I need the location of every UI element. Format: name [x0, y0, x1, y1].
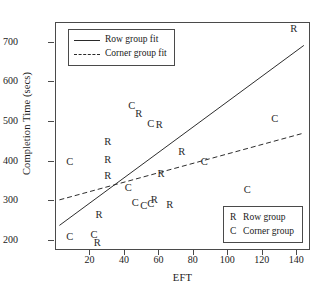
data-point-R: R: [104, 155, 111, 166]
legend-corner-group: C Corner group: [230, 224, 294, 238]
data-point-R: R: [135, 109, 142, 120]
data-point-C: C: [125, 182, 132, 193]
data-point-R: R: [290, 24, 297, 35]
y-tick-mark: [48, 121, 54, 122]
data-point-C: C: [201, 157, 208, 168]
data-point-C: C: [66, 157, 73, 168]
legend-row-group-fit: Row group fit: [74, 33, 167, 47]
corner-group-fit-line: [59, 133, 303, 200]
data-point-C: C: [271, 114, 278, 125]
plot-area: RRRRRRRRRRRRCCCCCCCCCCCC Row group fit C…: [55, 22, 310, 250]
y-tick-label: 600: [0, 75, 18, 86]
legend-label-row: Row group: [243, 210, 286, 224]
y-tick-mark: [48, 200, 54, 201]
data-point-C: C: [66, 232, 73, 243]
data-point-C: C: [147, 119, 154, 130]
y-tick-mark: [48, 240, 54, 241]
legend-key-row: R: [230, 210, 238, 224]
legend-label-corner: Corner group: [243, 224, 294, 238]
y-tick-mark: [48, 81, 54, 82]
data-point-C: C: [90, 230, 97, 241]
data-point-R: R: [104, 170, 111, 181]
x-tick-label: 140: [276, 254, 316, 265]
legend-corner-group-fit: Corner group fit: [74, 47, 167, 61]
fit-line-legend: Row group fit Corner group fit: [68, 29, 175, 66]
x-axis-label: EFT: [55, 272, 310, 283]
x-tick-mark: [158, 250, 159, 255]
data-point-R: R: [178, 147, 185, 158]
y-tick-mark: [48, 161, 54, 162]
data-point-R: R: [158, 168, 165, 179]
dashed-line-swatch-icon: [74, 50, 100, 58]
y-tick-mark: [48, 42, 54, 43]
y-tick-label: 200: [0, 234, 18, 245]
group-legend: R Row group C Corner group: [223, 206, 303, 244]
data-point-R: R: [166, 200, 173, 211]
solid-line-swatch-icon: [74, 36, 100, 44]
row-group-fit-line: [59, 45, 303, 225]
x-tick-mark: [296, 250, 297, 255]
legend-key-corner: C: [230, 224, 238, 238]
legend-label-row-fit: Row group fit: [105, 33, 158, 47]
x-tick-mark: [124, 250, 125, 255]
x-tick-mark: [262, 250, 263, 255]
data-point-R: R: [96, 210, 103, 221]
y-tick-label: 400: [0, 155, 18, 166]
y-axis-label: Completion Time (secs): [21, 44, 32, 204]
y-tick-label: 300: [0, 194, 18, 205]
x-tick-mark: [89, 250, 90, 255]
x-tick-mark: [227, 250, 228, 255]
data-point-R: R: [104, 137, 111, 148]
data-point-R: R: [156, 120, 163, 131]
data-point-C: C: [244, 184, 251, 195]
legend-label-corner-fit: Corner group fit: [105, 47, 167, 61]
chart-container: Completion Time (secs) EFT 2003004005006…: [0, 0, 330, 293]
y-tick-label: 700: [0, 36, 18, 47]
x-tick-mark: [193, 250, 194, 255]
data-point-C: C: [147, 199, 154, 210]
data-point-C: C: [132, 198, 139, 209]
legend-row-group: R Row group: [230, 210, 294, 224]
data-point-C: C: [128, 101, 135, 112]
y-tick-label: 500: [0, 115, 18, 126]
